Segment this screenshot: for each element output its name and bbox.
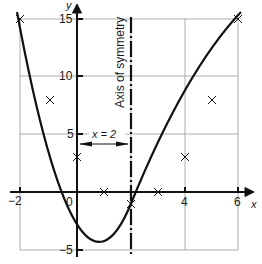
y-tick-label: 5 bbox=[67, 127, 74, 141]
x-axis-arrow-icon bbox=[245, 188, 254, 197]
parabola-curve bbox=[17, 12, 241, 242]
point-marker-x-icon bbox=[208, 96, 216, 104]
y-tick-label: 15 bbox=[59, 12, 73, 26]
arrow-right-icon bbox=[116, 142, 129, 147]
data-points bbox=[16, 15, 242, 208]
arrow-left-icon bbox=[79, 142, 92, 147]
y-axis-arrow-icon bbox=[73, 4, 82, 13]
y-tick-label: 10 bbox=[59, 69, 73, 83]
axis-of-symmetry-label: Axis of symmetry bbox=[113, 17, 127, 108]
parabola-chart: y x −2 0 4 6 15 10 5 −5 Axis of symmetry… bbox=[0, 0, 262, 264]
y-axis-label: y bbox=[65, 0, 73, 11]
grid bbox=[20, 19, 238, 250]
x-tick-label: 4 bbox=[181, 195, 188, 209]
x-tick-label: −2 bbox=[8, 194, 22, 208]
x-axis-label: x bbox=[250, 198, 257, 210]
distance-label: x = 2 bbox=[91, 128, 116, 140]
x-tick-label: 6 bbox=[234, 195, 241, 209]
distance-annotation: x = 2 bbox=[79, 127, 129, 147]
point-marker-x-icon bbox=[46, 96, 54, 104]
y-tick-label: −5 bbox=[59, 243, 73, 257]
